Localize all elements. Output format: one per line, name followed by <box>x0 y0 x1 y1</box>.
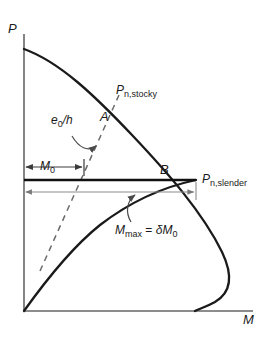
x-axis-label: M <box>243 313 254 326</box>
m-zero-m: M <box>40 159 50 173</box>
point-a-label: A <box>100 110 109 123</box>
slender-curve-label-p: P <box>202 172 210 186</box>
stocky-curve-label-p: P <box>116 83 124 97</box>
eccentricity-ratio-label: e0/h <box>51 114 73 126</box>
m-max-label: Mmax = δM0 <box>115 224 177 236</box>
y-axis-label: P <box>8 22 17 35</box>
m-max-sub2: 0 <box>172 229 177 239</box>
slender-interaction-curve <box>24 180 196 311</box>
m-max-dimension <box>26 182 196 200</box>
eccentricity-leader-arrow <box>72 136 96 149</box>
point-b-label: B <box>160 163 169 176</box>
stocky-curve-label-sub: n,stocky <box>124 89 157 99</box>
eccentricity-over-h: /h <box>63 113 73 127</box>
m-zero-sub: 0 <box>50 165 55 175</box>
m-zero-label: M0 <box>40 160 55 172</box>
m-max-equals: = <box>142 223 156 237</box>
eccentricity-sub: 0 <box>58 119 63 129</box>
eccentricity-e: e <box>51 113 58 127</box>
m-max-sub: max <box>125 229 142 239</box>
pm-interaction-diagram: P M A B Pn,stocky Pn,slender e0/h M0 Mma… <box>0 0 273 342</box>
m-max-m: M <box>115 223 125 237</box>
slender-curve-label: Pn,slender <box>202 173 247 185</box>
slender-curve-label-sub: n,slender <box>210 178 247 188</box>
stocky-curve-label: Pn,stocky <box>116 84 157 96</box>
m-max-m2: M <box>162 223 172 237</box>
m-max-leader-arrow <box>128 195 135 222</box>
